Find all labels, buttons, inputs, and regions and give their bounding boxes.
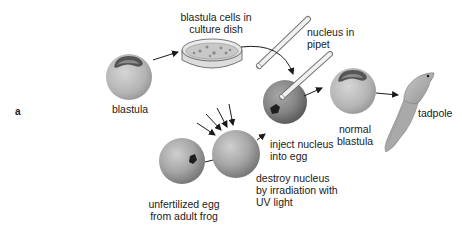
arrow-blastula-to-dish [153, 52, 178, 60]
pipet-upper-icon [256, 19, 308, 69]
panel-label: a [15, 106, 21, 117]
culture-dish-icon [182, 39, 242, 68]
injected-egg-icon [263, 80, 307, 124]
blastula-icon [106, 54, 152, 100]
label-pipet: nucleus in pipet [307, 26, 354, 50]
nuclear-transfer-diagram: a blastula blastula cells in culture dis… [0, 0, 462, 231]
arrow-egg-to-normal-blastula [304, 88, 322, 96]
arrow-blastula-to-tadpole [376, 93, 398, 95]
arrow-irradiated-to-injected [257, 134, 265, 140]
uv-light-arrows [197, 104, 233, 135]
unfertilized-egg-icon [159, 138, 205, 184]
normal-blastula-icon [330, 68, 376, 114]
label-destroy-nucleus: destroy nucleus by irradiation with UV l… [256, 172, 338, 208]
label-inject-nucleus: inject nucleus into egg [270, 138, 334, 162]
label-blastula: blastula [108, 103, 152, 115]
connector-egg-to-irradiated [205, 160, 213, 162]
label-tadpole: tadpole [418, 107, 452, 119]
label-unfertilized-egg: unfertilized egg from adult frog [146, 198, 222, 222]
label-culture-dish: blastula cells in culture dish [176, 11, 256, 35]
irradiated-egg-icon [212, 130, 260, 178]
label-normal-blastula: normal blastula [333, 123, 377, 147]
